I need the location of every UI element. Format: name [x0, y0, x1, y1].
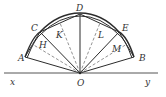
- label-K: K: [55, 30, 64, 40]
- label-D: D: [75, 3, 83, 13]
- geometry-diagram: A C D E B H K L M O x y: [0, 0, 166, 97]
- label-M: M: [111, 44, 122, 54]
- label-L: L: [97, 30, 104, 40]
- label-O: O: [77, 78, 85, 88]
- dashed-OL: [80, 23, 100, 73]
- label-y: y: [144, 77, 151, 87]
- label-A: A: [17, 53, 25, 63]
- label-B: B: [138, 53, 146, 63]
- dashed-OK: [60, 23, 80, 73]
- point-O-marker: [79, 72, 82, 75]
- label-H: H: [38, 40, 47, 50]
- label-C: C: [31, 23, 38, 33]
- label-E: E: [121, 23, 129, 33]
- label-x: x: [10, 77, 15, 87]
